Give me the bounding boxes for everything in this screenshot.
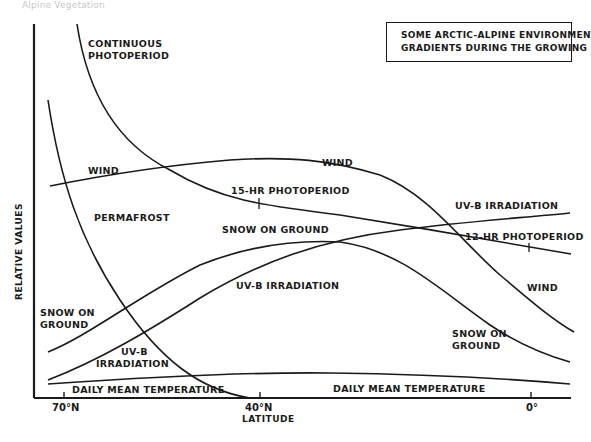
chart-plot-area: [0, 0, 591, 442]
label-permafrost: PERMAFROST: [94, 212, 170, 224]
label-snow-on-ground-left-2: GROUND: [40, 319, 89, 331]
label-uvb-left-2: IRRADIATION: [96, 358, 169, 370]
label-continuous-photoperiod-1: CONTINUOUS: [88, 38, 162, 50]
label-uvb-left-1: UV-B: [121, 346, 148, 358]
x-axis-label: LATITUDE: [242, 414, 295, 424]
permafrost-curve: [48, 100, 250, 398]
label-snow-on-ground-right-2: GROUND: [452, 340, 501, 352]
chart-title-line2: GRADIENTS DURING THE GROWING SEASON: [401, 42, 571, 55]
chart-title-line1: SOME ARCTIC-ALPINE ENVIRONMENTAL: [401, 29, 571, 42]
daily-mean-temperature-curve: [48, 373, 570, 384]
label-continuous-photoperiod-2: PHOTOPERIOD: [88, 50, 169, 62]
label-uvb-mid: UV-B IRRADIATION: [236, 280, 339, 292]
label-snow-on-ground-left-1: SNOW ON: [40, 307, 95, 319]
x-tick-0: 0°: [526, 402, 538, 413]
label-wind-top: WIND: [322, 157, 353, 169]
label-uvb-right: UV-B IRRADIATION: [455, 200, 558, 212]
x-tick-40n: 40°N: [245, 402, 272, 413]
y-axis-label: RELATIVE VALUES: [14, 203, 24, 300]
label-12hr-photoperiod: 12-HR PHOTOPERIOD: [465, 231, 584, 243]
label-daily-mean-temperature-left: DAILY MEAN TEMPERATURE: [72, 384, 225, 396]
chart-title-box: SOME ARCTIC-ALPINE ENVIRONMENTAL GRADIEN…: [386, 22, 572, 62]
x-tick-70n: 70°N: [52, 402, 79, 413]
label-wind-left: WIND: [88, 165, 119, 177]
label-15hr-photoperiod: 15-HR PHOTOPERIOD: [231, 185, 350, 197]
label-daily-mean-temperature-right: DAILY MEAN TEMPERATURE: [333, 383, 486, 395]
label-snow-on-ground-mid: SNOW ON GROUND: [222, 224, 329, 236]
label-snow-on-ground-right-1: SNOW ON: [452, 328, 507, 340]
label-wind-right: WIND: [527, 282, 558, 294]
